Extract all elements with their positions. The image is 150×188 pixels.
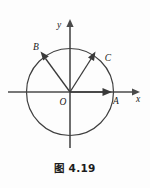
label-point-a: A (112, 96, 119, 106)
label-y-axis: y (56, 20, 62, 30)
label-point-b: B (33, 42, 39, 52)
unit-circle-diagram: y x O A B C (0, 0, 150, 160)
y-axis-arrow-icon (66, 19, 73, 27)
label-origin: O (60, 97, 67, 107)
vector-oa-arrow-icon (103, 88, 113, 96)
figure-caption: 图 4.19 (0, 160, 150, 175)
figure-container: y x O A B C 图 4.19 (0, 0, 150, 188)
label-point-c: C (105, 53, 112, 63)
vector-oc (70, 59, 91, 92)
vector-ob (46, 59, 71, 93)
label-x-axis: x (135, 94, 141, 104)
